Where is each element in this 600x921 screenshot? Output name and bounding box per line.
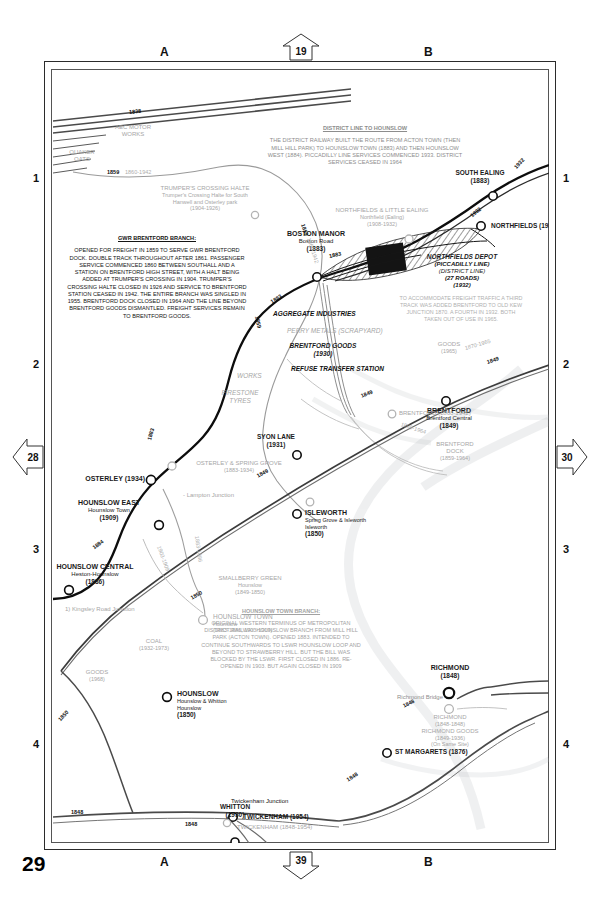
marker-osterley-spring-grove [168,462,176,470]
feature-coal-name: COAL [129,638,179,645]
feature-brentford-goods-name: BRENTFORD GOODS [273,342,373,350]
feature-northfields-depot-name: NORTHFIELDS DEPOT [407,253,517,261]
marker-northfields-little-ealing [405,235,413,243]
station-label-northfields-little-ealing: NORTHFIELDS & LITTLE EALING Northfield (… [301,207,463,227]
grid-row-4-left: 4 [33,738,39,750]
feature-works: WORKS [237,372,262,380]
note-gwr-brentford: GWR BRENTFORD BRANCH: OPENED FOR FREIGHT… [67,235,247,320]
station-years-osterley-spring-grove: (1883-1934) [179,467,299,473]
feature-goods-1968: GOODS (1968) [73,669,121,683]
feature-perry-metals: PERRY METALS (SCRAPYARD) [287,327,383,335]
grid-col-b-top: B [424,45,433,59]
station-name-hounslow-central: HOUNSLOW CENTRAL [51,563,139,571]
grid-col-a-bottom: A [160,855,169,869]
feature-firestone-tyres: FIRESTONE TYRES [205,389,275,404]
station-name-smallberry-green: SMALLBERRY GREEN [191,575,309,582]
station-label-smallberry-green: SMALLBERRY GREEN Hounslow (1849-1850) [191,575,309,595]
station-name-northfields-little-ealing: NORTHFIELDS & LITTLE EALING [301,207,463,214]
note-gwr-brentford-heading: GWR BRENTFORD BRANCH: [67,235,247,242]
station-name-richmond: RICHMOND [417,664,483,672]
continuation-arrow-bottom[interactable]: 39 [281,850,321,880]
station-name-boston-manor: BOSTON MANOR [283,230,349,238]
grid-row-4-right: 4 [563,738,569,750]
continuation-arrow-top[interactable]: 19 [281,33,321,61]
river-wash [348,369,549,829]
marker-boston-manor [313,273,321,281]
note-third-track-body: TO ACCOMMODATE FREIGHT TRAFFIC A THIRD T… [399,295,523,323]
feature-northfields-depot-sub1: (PICCADILLY LINE) [407,261,517,268]
atlas-page: 19 39 28 30 A B A B 1 2 3 4 1 2 3 4 29 [0,0,600,921]
feature-aggregate-industries: AGGREGATE INDUSTRIES [273,310,356,318]
page-number: 29 [22,852,45,876]
grid-row-1-right: 1 [563,172,569,184]
station-label-osterley: OSTERLEY (1934) [61,475,145,483]
richmond-east-lines [457,681,549,699]
marker-trumpers-crossing [251,211,258,218]
station-name-hounslow: HOUNSLOW [177,690,227,698]
arrow-bottom-number: 39 [281,855,321,866]
station-years-hounslow-east: (1909) [65,514,153,522]
station-years-hounslow-central: (1886) [51,578,139,586]
station-name-hounslow-east: HOUNSLOW EAST [65,499,153,507]
station-label-richmond-old: RICHMOND (1848-1848) RICHMOND GOODS (184… [413,714,487,748]
feature-brentford-goods: BRENTFORD GOODS (1930) [273,342,373,357]
grid-row-1-left: 1 [33,172,39,184]
grid-col-b-bottom: B [424,855,433,869]
marker-st-margarets [383,749,391,757]
station-label-hounslow-town: HOUNSLOW TOWN Hounslow (1883-1886, 1903-… [213,613,273,634]
station-alt-isleworth: Spring Grove & Isleworth Isleworth [305,517,366,530]
marker-osterley [146,475,155,484]
station-label-northfields: NORTHFIELDS (1932) [491,222,549,230]
grid-row-3-left: 3 [33,543,39,555]
station-years-richmond-old-3: (On Same Site) [413,741,487,747]
feature-brentford-dock: BRENTFORD DOCK (1859-1964) [417,441,493,462]
feature-richmond-bridge: Richmond Bridge [397,694,443,701]
station-years-hounslow-town: (1883-1886, 1903-1909) [213,627,273,633]
feature-trumpers-crossing-name: TRUMPER'S CROSSING HALTE [121,185,289,192]
station-years-isleworth: (1850) [305,530,366,538]
marker-brentford-old [388,410,396,418]
station-label-syon-lane: SYON LANE (1931) [255,433,297,448]
note-third-track: TO ACCOMMODATE FREIGHT TRAFFIC A THIRD T… [399,295,523,323]
feature-aec-motor-works: AEC MOTOR WORKS [95,124,171,138]
feature-trumpers-crossing: TRUMPER'S CROSSING HALTE Trumper's Cross… [121,185,289,212]
marker-isleworth [293,510,301,518]
feature-goods-1968-sub: (1968) [73,676,121,682]
marker-syon-lane [293,451,301,459]
continuation-arrow-right[interactable]: 30 [556,436,588,478]
feature-lampton-junction: - Lampton Junction [183,492,234,499]
year-tag-1848-a: 1848 [71,809,83,815]
station-years-northfields-little-ealing: (1908-1932) [301,221,463,227]
richmond-goods-lines [457,708,507,710]
station-name-osterley-spring-grove: OSTERLEY & SPRING GROVE [179,460,299,467]
station-label-south-ealing: SOUTH EALING (1883) [449,169,511,184]
feature-northfields-depot-sub3: (27 ROADS) [407,275,517,282]
grid-row-3-right: 3 [563,543,569,555]
marker-smallberry-green [306,498,314,506]
lswr-to-whitton [61,671,133,813]
station-name-northfields: NORTHFIELDS (1932) [491,222,549,230]
station-name-hounslow-town: HOUNSLOW TOWN [213,613,273,621]
station-alt-hounslow-central: Heston-Hounslow [51,571,139,578]
feature-refuse-transfer-station: REFUSE TRANSFER STATION [291,365,384,373]
marker-northfields [477,222,485,230]
note-district-line-body: THE DISTRICT RAILWAY BUILT THE ROUTE FRO… [267,137,463,166]
feature-trumpers-crossing-sub: Trumper's Crossing Halte for South Hanwe… [121,192,289,211]
station-years-syon-lane: (1931) [255,441,297,449]
note-gwr-brentford-body: OPENED FOR FREIGHT IN 1859 TO SERVE GWR … [67,247,247,320]
station-name-richmond-old: RICHMOND [413,714,487,721]
continuation-arrow-left[interactable]: 28 [12,436,44,478]
marker-hounslow-east [155,521,164,530]
station-name-brentford-old: BRENTFORD (1860-1942) [399,410,471,417]
station-label-isleworth: ISLEWORTH Spring Grove & Isleworth Islew… [305,509,366,538]
station-label-richmond: RICHMOND (1848) [417,664,483,680]
station-name-isleworth: ISLEWORTH [305,509,366,517]
station-name-twickenham: TWICKENHAM (1954) [243,813,309,821]
station-name-twickenham-old: TWICKENHAM (1848-1954) [237,824,312,831]
marker-south-ealing [489,192,497,200]
station-alt-hounslow: Hounslow & Whitton Hounslow [177,698,227,711]
feature-brentford-goods-sub: (1930) [273,350,373,358]
station-name-syon-lane: SYON LANE [255,433,297,441]
feature-brentford-dock-name: BRENTFORD DOCK [417,441,493,455]
station-alt-boston-manor: Boston Road [283,238,349,245]
